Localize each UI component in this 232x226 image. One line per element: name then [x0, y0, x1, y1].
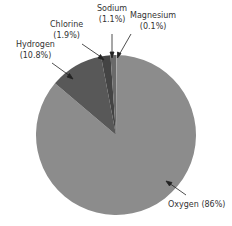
chlorine-label: Chlorine (1.9%)	[50, 19, 83, 41]
pie-slices	[36, 55, 196, 215]
hydrogen-label: Hydrogen (10.8%)	[16, 39, 55, 61]
oxygen-label: Oxygen (86%)	[168, 199, 225, 210]
magnesium-label: Magnesium (0.1%)	[130, 10, 176, 32]
sodium-label-value: (1.1%)	[97, 14, 127, 25]
magnesium-label-name: Magnesium	[130, 10, 176, 21]
chlorine-label-name: Chlorine	[50, 19, 83, 30]
hydrogen-label-value: (10.8%)	[16, 50, 55, 61]
sodium-label: Sodium (1.1%)	[97, 3, 127, 25]
oxygen-label-name: Oxygen (86%)	[168, 199, 225, 210]
hydrogen-arrow	[52, 63, 70, 76]
chlorine-label-value: (1.9%)	[50, 30, 83, 41]
chlorine-arrow	[82, 44, 101, 57]
magnesium-arrow	[119, 34, 131, 55]
sodium-label-name: Sodium	[97, 3, 127, 14]
hydrogen-label-name: Hydrogen	[16, 39, 55, 50]
pie-chart	[0, 0, 232, 226]
magnesium-label-value: (0.1%)	[130, 21, 176, 32]
